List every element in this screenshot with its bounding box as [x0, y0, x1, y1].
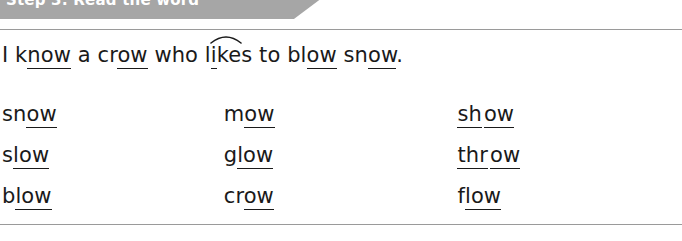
word-item: slow	[2, 135, 219, 176]
sentence-underline-ow: ow	[307, 43, 337, 69]
sentence-part-plain: .	[396, 43, 403, 67]
word-item: throw	[457, 135, 682, 176]
step-banner-label: Step 3: Read the word	[6, 0, 199, 9]
word-plain: f	[457, 184, 465, 208]
word-plain: sn	[2, 102, 26, 126]
word-plain: m	[224, 102, 245, 126]
word-item: glow	[224, 135, 441, 176]
word-item: show	[457, 94, 682, 135]
word-item: snow	[2, 94, 219, 135]
word-list: snow slow blow mow glow crow show throw …	[0, 94, 682, 217]
word-plain: b	[2, 184, 15, 208]
word-plain: cr	[224, 184, 244, 208]
word-underline-rime: ow	[484, 102, 514, 128]
word-column-3: show throw flow	[440, 94, 682, 217]
word-underline: low	[13, 143, 49, 169]
word-item: crow	[224, 176, 441, 217]
step-banner-shape: Step 3: Read the word	[0, 0, 334, 19]
sentence-part-plain: I k	[2, 43, 27, 67]
reading-panel: I know a crow who likes to blow snow. sn…	[0, 29, 682, 225]
word-underline: low	[15, 184, 51, 210]
word-underline: low	[237, 143, 273, 169]
sentence-part-plain: s to bl	[241, 43, 306, 67]
sentence-part-plain: a cr	[71, 43, 117, 67]
word-underline-onset: sh	[457, 102, 481, 128]
word-item: flow	[457, 176, 682, 217]
word-underline: ow	[244, 184, 274, 210]
sentence-underline-ow: ow	[368, 43, 396, 69]
word-underline-rime: ow	[490, 143, 520, 169]
sentence-underline-now: now	[27, 43, 71, 69]
word-underline: ow	[244, 102, 274, 128]
word-plain: s	[2, 143, 13, 167]
word-item: mow	[224, 94, 441, 135]
word-plain: g	[224, 143, 237, 167]
word-underline-onset: thr	[457, 143, 487, 169]
sentence-underline-ow: ow	[117, 43, 147, 69]
word-underline: low	[465, 184, 501, 210]
sentence-part-plain: sn	[337, 43, 368, 67]
word-column-2: mow glow crow	[219, 94, 441, 217]
practice-sentence: I know a crow who likes to blow snow.	[2, 42, 403, 68]
word-item: blow	[2, 176, 219, 217]
word-underline: ow	[26, 102, 56, 128]
arc-mark-group: ike	[211, 42, 241, 68]
sentence-part-plain: who l	[148, 43, 211, 67]
sentence-part-plain: ke	[217, 43, 242, 67]
word-column-1: snow slow blow	[0, 94, 219, 217]
step-banner: Step 3: Read the word	[0, 0, 682, 19]
